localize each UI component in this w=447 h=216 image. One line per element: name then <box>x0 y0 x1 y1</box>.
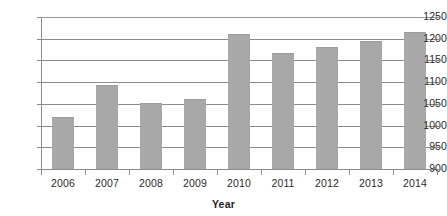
x-tick-label: 2009 <box>173 177 217 189</box>
bar-chart: 125012001150110010501000950900 200620072… <box>0 0 447 216</box>
chart-title <box>0 0 447 4</box>
x-tick-mark <box>261 170 262 175</box>
x-tick-mark <box>129 170 130 175</box>
y-tick-mark <box>37 60 42 61</box>
x-tick-mark <box>217 170 218 175</box>
y-tick-mark <box>37 126 42 127</box>
x-tick-label: 2006 <box>41 177 85 189</box>
x-tick-label: 2007 <box>85 177 129 189</box>
y-tick-mark-right <box>437 104 442 105</box>
y-tick-mark-right <box>437 39 442 40</box>
y-tick-mark-right <box>437 126 442 127</box>
x-tick-label: 2014 <box>393 177 437 189</box>
x-tick-mark <box>41 170 42 175</box>
bar-2007 <box>96 85 118 169</box>
y-tick-mark <box>37 17 42 18</box>
gridline <box>41 17 437 18</box>
x-tick-label: 2013 <box>349 177 393 189</box>
x-tick-mark <box>305 170 306 175</box>
bar-2008 <box>140 103 162 169</box>
x-tick-mark <box>349 170 350 175</box>
bar-2011 <box>272 53 294 169</box>
x-tick-label: 2010 <box>217 177 261 189</box>
bar-2009 <box>184 99 206 169</box>
x-tick-mark <box>437 170 438 175</box>
bar-2013 <box>360 41 382 169</box>
y-tick-mark-right <box>437 17 442 18</box>
y-tick-mark <box>37 82 42 83</box>
x-tick-label: 2008 <box>129 177 173 189</box>
plot-area <box>41 17 437 169</box>
y-tick-mark <box>37 39 42 40</box>
x-tick-mark <box>393 170 394 175</box>
bar-2012 <box>316 47 338 169</box>
bar-2006 <box>52 117 74 169</box>
x-tick-mark <box>85 170 86 175</box>
x-tick-label: 2011 <box>261 177 305 189</box>
y-tick-mark <box>37 104 42 105</box>
x-tick-mark <box>173 170 174 175</box>
y-tick-mark-right <box>437 147 442 148</box>
y-tick-mark-right <box>437 60 442 61</box>
x-axis-title: Year <box>0 198 447 210</box>
y-tick-mark <box>37 147 42 148</box>
x-axis-line <box>41 169 438 170</box>
x-tick-label: 2012 <box>305 177 349 189</box>
y-tick-mark-right <box>437 82 442 83</box>
bar-2010 <box>228 34 250 169</box>
